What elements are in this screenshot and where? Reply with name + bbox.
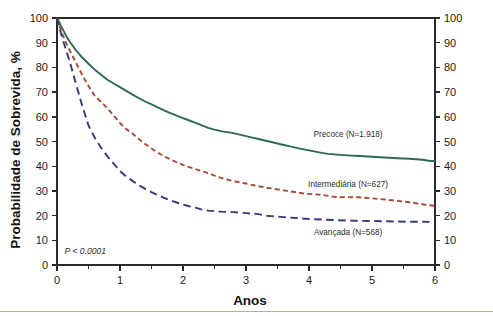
x-axis-ticks: 0123456 [54, 265, 438, 286]
y-tick-label-left: 10 [36, 234, 48, 246]
series-label-precoce: Precoce (N=1.918) [314, 130, 383, 139]
y-axis-right-ticks: 0102030405060708090100 [435, 12, 462, 271]
x-axis-title: Anos [233, 293, 267, 308]
series-curves [57, 18, 435, 222]
x-tick-label: 6 [432, 274, 438, 286]
y-tick-label-right: 70 [444, 86, 456, 98]
survival-chart-figure: 0102030405060708090100 01020304050607080… [0, 0, 493, 316]
y-tick-label-left: 90 [36, 37, 48, 49]
y-tick-label-right: 20 [444, 210, 456, 222]
chart-annotations: P < 0.0001 [65, 246, 107, 256]
x-tick-label: 1 [117, 274, 123, 286]
y-tick-label-left: 60 [36, 111, 48, 123]
x-tick-label: 3 [243, 274, 249, 286]
y-tick-label-right: 60 [444, 111, 456, 123]
y-tick-label-left: 70 [36, 86, 48, 98]
y-tick-label-left: 40 [36, 160, 48, 172]
x-tick-label: 0 [54, 274, 60, 286]
y-tick-label-right: 40 [444, 160, 456, 172]
y-axis-left-ticks: 0102030405060708090100 [30, 12, 57, 271]
x-tick-label: 4 [306, 274, 312, 286]
y-tick-label-left: 50 [36, 136, 48, 148]
curve-intermediria [57, 18, 435, 206]
chart-canvas: 0102030405060708090100 01020304050607080… [0, 0, 493, 316]
y-tick-label-left: 30 [36, 185, 48, 197]
y-tick-label-left: 100 [30, 12, 48, 24]
y-tick-label-right: 50 [444, 136, 456, 148]
y-tick-label-left: 80 [36, 61, 48, 73]
curve-avanada [57, 18, 435, 222]
y-tick-label-left: 0 [42, 259, 48, 271]
y-tick-label-right: 80 [444, 61, 456, 73]
curve-precoce [57, 18, 435, 161]
y-axis-title: Probabilidade de Sobrevida, % [8, 51, 23, 248]
y-tick-label-right: 90 [444, 37, 456, 49]
series-label-avanada: Avançada (N=568) [314, 228, 383, 237]
y-tick-label-right: 30 [444, 185, 456, 197]
annotation-p-value: P < 0.0001 [65, 246, 107, 256]
y-tick-label-right: 100 [444, 12, 462, 24]
y-tick-label-left: 20 [36, 210, 48, 222]
y-tick-label-right: 0 [444, 259, 450, 271]
y-tick-label-right: 10 [444, 234, 456, 246]
x-tick-label: 2 [180, 274, 186, 286]
footer-divider [0, 311, 493, 312]
series-label-intermediria: Intermediária (N=627) [308, 180, 388, 189]
x-tick-label: 5 [369, 274, 375, 286]
